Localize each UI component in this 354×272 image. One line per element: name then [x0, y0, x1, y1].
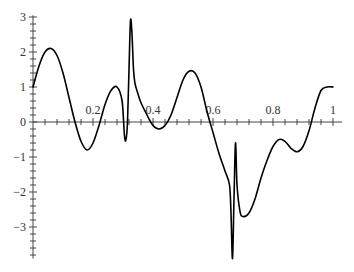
line-chart: 0.20.40.60.813210−1−2−3	[0, 0, 354, 272]
axis-ticks	[29, 17, 333, 255]
y-tick-label: −1	[13, 150, 26, 164]
y-tick-label: 0	[20, 115, 26, 129]
y-tick-label: −3	[13, 220, 26, 234]
y-tick-label: 2	[20, 45, 26, 59]
x-tick-label: 0.8	[266, 103, 281, 117]
x-tick-label: 0.2	[86, 103, 101, 117]
y-tick-label: 1	[20, 80, 26, 94]
function-curve	[33, 19, 333, 259]
x-tick-label: 1	[330, 103, 336, 117]
y-tick-label: −2	[13, 185, 26, 199]
y-tick-label: 3	[20, 10, 26, 24]
